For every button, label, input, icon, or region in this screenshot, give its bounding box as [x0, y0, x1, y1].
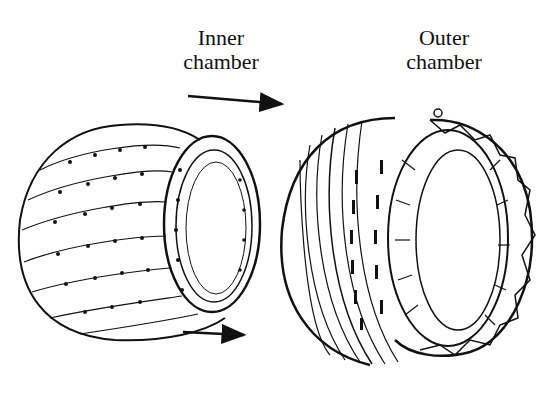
combustion-chamber-drawing	[0, 0, 553, 415]
top-arrow-icon	[188, 96, 282, 104]
outer-chamber-icon	[281, 109, 535, 365]
inner-chamber-icon	[19, 124, 260, 340]
